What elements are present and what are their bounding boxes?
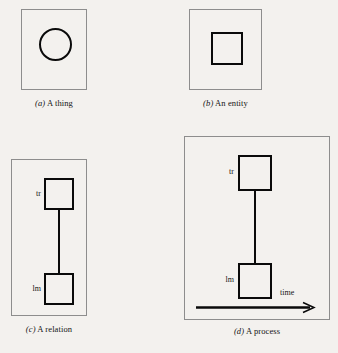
time-arrow-svg xyxy=(196,300,320,314)
panel-c-link-line xyxy=(58,210,60,273)
panel-d-node-tr xyxy=(238,155,272,191)
panel-d-caption-letter: (d) xyxy=(234,326,244,336)
panel-c-label-lm: lm xyxy=(19,284,41,293)
panel-d-node-lm xyxy=(238,263,272,299)
figure-container: (a) A thing (b) An entity tr lm (c) A re… xyxy=(0,0,338,353)
panel-d-label-tr: tr xyxy=(214,167,234,176)
panel-c-node-tr xyxy=(44,178,74,210)
panel-b-entity: (b) An entity xyxy=(189,9,262,113)
panel-c-node-lm xyxy=(44,273,74,305)
entity-square-shape xyxy=(211,32,243,65)
panel-a-caption-letter: (a) xyxy=(35,98,45,108)
panel-d-time-arrow xyxy=(196,300,320,314)
panel-d-time-label: time xyxy=(280,288,294,297)
panel-d-label-lm: lm xyxy=(211,275,234,284)
panel-d-caption: (d) A process xyxy=(184,326,330,336)
panel-b-caption-letter: (b) xyxy=(203,98,213,108)
panel-a-thing: (a) A thing xyxy=(21,9,87,113)
panel-d-link-line xyxy=(254,191,256,263)
panel-c-caption: (c) A relation xyxy=(11,324,87,334)
panel-a-caption: (a) A thing xyxy=(21,98,87,108)
panel-c-relation: tr lm (c) A relation xyxy=(11,159,87,339)
panel-b-caption-text: An entity xyxy=(215,98,248,108)
thing-circle-shape xyxy=(39,28,72,61)
panel-b-caption: (b) An entity xyxy=(189,98,262,108)
panel-d-caption-text: A process xyxy=(246,326,280,336)
panel-d-process: tr lm time (d) A process xyxy=(184,136,330,344)
panel-c-caption-text: A relation xyxy=(37,324,72,334)
panel-a-caption-text: A thing xyxy=(47,98,73,108)
panel-c-label-tr: tr xyxy=(22,189,41,198)
panel-c-caption-letter: (c) xyxy=(26,324,36,334)
